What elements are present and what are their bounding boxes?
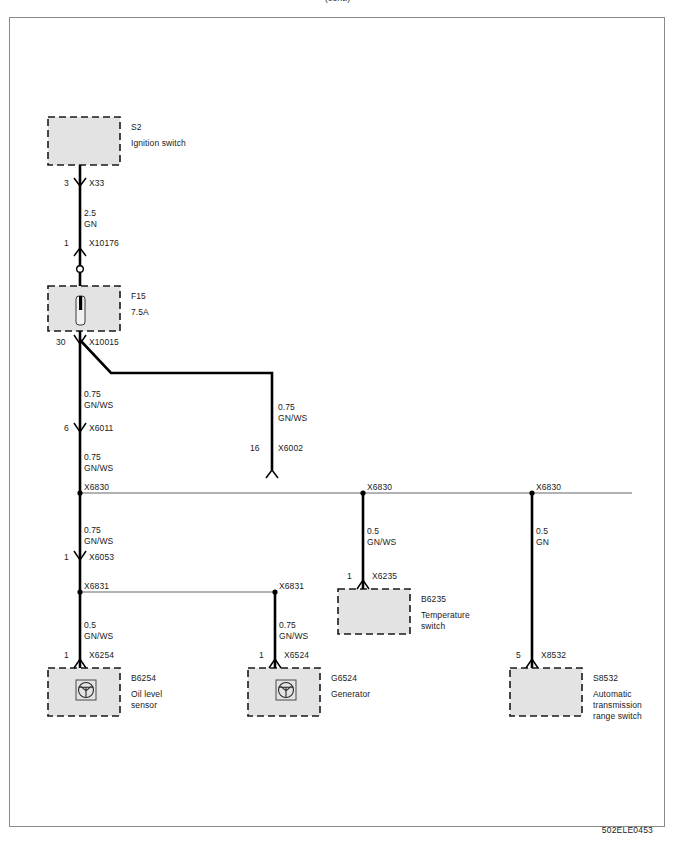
terminal-x6002: 16: [250, 443, 260, 454]
component-name-s2: Ignition switch: [131, 138, 186, 149]
wire-color-w3: GN/WS: [278, 413, 307, 424]
wire-gauge-w4: 0.75: [84, 452, 101, 463]
connector-x6830-mid: X6830: [367, 482, 392, 493]
wire-gauge-w1: 2.5: [84, 208, 96, 219]
connector-x6524: X6524: [284, 650, 309, 661]
wire-color-w8: GN/WS: [367, 537, 396, 548]
wire-gauge-w5: 0.75: [84, 525, 101, 536]
connector-x6254: X6254: [89, 650, 114, 661]
component-name-g6524: Generator: [331, 689, 370, 700]
component-name-b6235-line1: Temperature: [421, 610, 470, 621]
component-ref-b6235: B6235: [421, 594, 446, 605]
terminal-x33: 3: [64, 178, 69, 189]
diagram-page: (cont.): [0, 0, 675, 849]
connector-x6831-left: X6831: [84, 581, 109, 592]
wire-gauge-w9: 0.5: [536, 526, 548, 537]
connector-x6053: X6053: [89, 552, 114, 563]
component-box-b6254[interactable]: [48, 668, 120, 716]
wire-color-w9: GN: [536, 537, 549, 548]
splice-dot-x10176: [77, 266, 84, 273]
component-box-s2[interactable]: [48, 117, 120, 165]
terminal-x6254: 1: [64, 650, 69, 661]
junction-dot-x6831-left: [77, 589, 82, 594]
wire-gauge-w2: 0.75: [84, 389, 101, 400]
wire-color-w2: GN/WS: [84, 400, 113, 411]
component-ref-f15: F15: [131, 291, 146, 302]
component-name-s8532-line1: Automatic: [593, 689, 632, 700]
connector-x10176: X10176: [89, 238, 119, 249]
terminal-x8532: 5: [516, 650, 521, 661]
terminal-x6235: 1: [347, 571, 352, 582]
fuse-icon-element: [79, 296, 82, 310]
terminal-x6524: 1: [259, 650, 264, 661]
connector-x6831-mid: X6831: [279, 581, 304, 592]
diagram-footer-code: 502ELE0453: [602, 825, 653, 835]
terminal-x10176: 1: [64, 238, 69, 249]
connector-x6011: X6011: [89, 423, 113, 434]
component-name-s8532-line2: transmission: [593, 700, 642, 711]
connector-x6002: X6002: [278, 443, 303, 454]
wire-gauge-w3: 0.75: [278, 402, 295, 413]
terminal-x6011: 6: [64, 423, 69, 434]
component-name-b6254-line2: sensor: [131, 700, 157, 711]
connector-x6235: X6235: [372, 571, 397, 582]
component-rating-f15: 7.5A: [131, 307, 149, 318]
component-ref-s8532: S8532: [593, 673, 618, 684]
component-name-b6235-line2: switch: [421, 621, 445, 632]
component-name-s8532-line3: range switch: [593, 711, 642, 722]
connector-chevron-x6002: [266, 470, 278, 478]
wire-color-w6: GN/WS: [84, 631, 113, 642]
wire-color-w1: GN: [84, 219, 97, 230]
connector-x6830-right: X6830: [536, 482, 561, 493]
wire-gauge-w7: 0.75: [279, 620, 296, 631]
component-box-s8532[interactable]: [510, 668, 582, 716]
component-name-b6254-line1: Oil level: [131, 689, 162, 700]
junction-dot-x6830-right: [529, 490, 534, 495]
connector-x6830-left: X6830: [84, 482, 109, 493]
junction-dot-x6830-left: [77, 490, 82, 495]
wire-color-w7: GN/WS: [279, 631, 308, 642]
connector-x10015: X10015: [89, 337, 119, 348]
wire-color-w5: GN/WS: [84, 536, 113, 547]
component-ref-b6254: B6254: [131, 673, 156, 684]
junction-dot-x6831-mid: [272, 589, 277, 594]
component-box-b6235[interactable]: [338, 589, 410, 634]
component-box-g6524[interactable]: [248, 668, 320, 716]
component-ref-g6524: G6524: [331, 673, 357, 684]
connector-x8532: X8532: [541, 650, 566, 661]
terminal-x6053: 1: [64, 552, 69, 563]
terminal-x10015: 30: [56, 337, 66, 348]
wire-gauge-w6: 0.5: [84, 620, 96, 631]
wire-color-w4: GN/WS: [84, 463, 113, 474]
connector-x33: X33: [89, 178, 104, 189]
wire-gauge-w8: 0.5: [367, 526, 379, 537]
junction-dot-x6830-mid: [360, 490, 365, 495]
component-ref-s2: S2: [131, 122, 142, 133]
